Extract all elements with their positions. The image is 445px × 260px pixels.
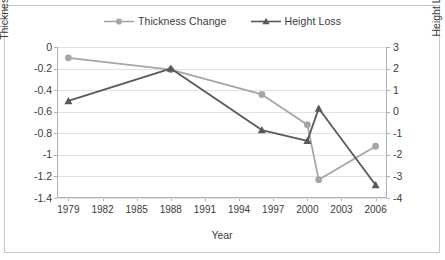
y-axis-right-title: Height Loss [m] xyxy=(430,0,442,55)
y-axis-right-tick-mark xyxy=(387,112,390,113)
data-point-circle-marker xyxy=(65,54,72,61)
y-axis-left-title: Thickness Change [m / year] xyxy=(0,0,10,48)
legend-label-thickness-change: Thickness Change xyxy=(138,15,227,27)
data-point-circle-marker xyxy=(372,143,379,150)
chart-legend: Thickness Change Height Loss xyxy=(0,15,445,27)
y-axis-right-tick-label: 2 xyxy=(393,63,399,74)
legend-item-height-loss[interactable]: Height Loss xyxy=(251,15,342,27)
x-axis-tick-label: 2006 xyxy=(364,205,386,215)
x-axis-tick-label: 1991 xyxy=(194,205,216,215)
x-axis-tick-label: 1997 xyxy=(262,205,284,215)
y-axis-right-tick-mark xyxy=(387,69,390,70)
y-axis-right-tick-mark xyxy=(387,133,390,134)
plot-area xyxy=(57,47,387,198)
y-axis-right-tick-label: -3 xyxy=(393,171,402,182)
series-line xyxy=(68,69,375,185)
legend-marker-triangle-icon xyxy=(251,16,281,27)
series-plot xyxy=(57,47,387,198)
y-axis-right-tick-label: -4 xyxy=(393,193,402,204)
y-axis-left-tick-label: -0.4 xyxy=(34,85,52,96)
x-axis-tick-label: 1982 xyxy=(91,205,113,215)
y-axis-left-tick-label: -1.2 xyxy=(34,171,52,182)
x-axis-tick-label: 1979 xyxy=(57,205,79,215)
y-axis-left-tick-label: -0.6 xyxy=(34,106,52,117)
y-axis-right-tick-label: -1 xyxy=(393,128,402,139)
y-axis-left-tick-label: -1.4 xyxy=(34,193,52,204)
x-axis-tick-label: 1985 xyxy=(126,205,148,215)
y-axis-right-tick-mark xyxy=(387,176,390,177)
x-axis-title: Year xyxy=(57,229,387,241)
series-line xyxy=(68,58,375,180)
y-axis-left-tick-label: 0 xyxy=(46,42,52,53)
legend-label-height-loss: Height Loss xyxy=(285,15,342,27)
data-point-triangle-marker xyxy=(315,104,323,111)
x-axis-tick-label: 2000 xyxy=(296,205,318,215)
y-axis-left-tick-label: -0.2 xyxy=(34,63,52,74)
series-thickness-change xyxy=(65,54,379,183)
y-axis-left-tick-label: -0.8 xyxy=(34,128,52,139)
y-axis-left-tick-label: -1 xyxy=(43,149,52,160)
x-axis-tick-label: 2003 xyxy=(330,205,352,215)
y-axis-right-tick-mark xyxy=(387,155,390,156)
data-point-circle-marker xyxy=(258,91,265,98)
legend-marker-circle-icon xyxy=(104,16,134,27)
x-axis-tick-label: 1994 xyxy=(228,205,250,215)
chart-container: Thickness Change Height Loss Thickness C… xyxy=(0,0,445,260)
data-point-circle-marker xyxy=(304,121,311,128)
y-axis-right-tick-mark xyxy=(387,90,390,91)
data-point-circle-marker xyxy=(315,176,322,183)
y-axis-right-tick-label: 3 xyxy=(393,42,399,53)
y-axis-right-tick-mark xyxy=(387,47,390,48)
y-axis-right-tick-mark xyxy=(387,198,390,199)
gridline xyxy=(57,198,387,199)
x-axis-tick-label: 1988 xyxy=(160,205,182,215)
legend-item-thickness-change[interactable]: Thickness Change xyxy=(104,15,227,27)
y-axis-right-tick-label: 0 xyxy=(393,106,399,117)
y-axis-right-tick-label: 1 xyxy=(393,85,399,96)
y-axis-right-tick-label: -2 xyxy=(393,149,402,160)
